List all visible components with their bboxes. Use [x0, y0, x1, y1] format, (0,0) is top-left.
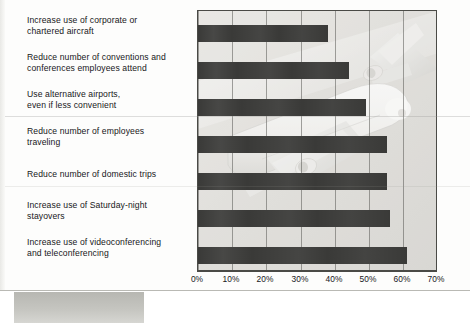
category-label-3-line2: traveling [27, 137, 60, 147]
category-label-2-line2: even if less convenient [27, 100, 116, 110]
plot-area [197, 10, 437, 272]
category-label-5-line1: Increase use of Saturday-night [27, 200, 147, 210]
bar-4 [198, 173, 387, 190]
category-label-list: Increase use of corporate or chartered a… [27, 10, 195, 272]
category-label-6: Increase use of videoconferencing and te… [27, 237, 197, 259]
x-tick-20: 20% [257, 274, 274, 284]
x-tick-70: 70% [428, 274, 445, 284]
category-label-4: Reduce number of domestic trips [27, 169, 197, 180]
category-label-2-line1: Use alternative airports, [27, 89, 120, 99]
x-tick-0: 0% [191, 274, 203, 284]
x-tick-10: 10% [223, 274, 240, 284]
x-axis-tick-labels: 0% 10% 20% 30% 40% 50% 60% 70% [197, 274, 437, 287]
scan-page-edge-left [0, 0, 5, 292]
category-label-2: Use alternative airports, even if less c… [27, 89, 197, 111]
category-label-3-line1: Reduce number of employees [27, 126, 144, 136]
x-tick-30: 30% [292, 274, 309, 284]
category-label-1-line1: Reduce number of conventions and [27, 52, 166, 62]
category-label-1-line2: conferences employees attend [27, 63, 147, 73]
category-label-6-line2: and teleconferencing [27, 248, 109, 258]
scan-page-shadow-block [14, 292, 144, 323]
x-tick-60: 60% [394, 274, 411, 284]
category-label-4-line1: Reduce number of domestic trips [27, 169, 156, 179]
category-label-1: Reduce number of conventions and confere… [27, 52, 197, 74]
bar-5 [198, 210, 390, 227]
bar-2 [198, 99, 366, 116]
category-label-5-line2: stayovers [27, 211, 65, 221]
scan-fold-line-secondary [0, 186, 470, 187]
category-label-0-line1: Increase use of corporate or [27, 15, 137, 25]
scan-fold-line [0, 116, 470, 117]
category-label-5: Increase use of Saturday-night stayovers [27, 200, 197, 222]
x-tick-40: 40% [326, 274, 343, 284]
bar-3 [198, 136, 387, 153]
category-label-3: Reduce number of employees traveling [27, 126, 197, 148]
bar-0 [198, 25, 328, 42]
chart-page: Increase use of corporate or chartered a… [0, 0, 470, 323]
x-axis-baseline [198, 270, 436, 271]
category-label-0: Increase use of corporate or chartered a… [27, 15, 197, 37]
category-label-6-line1: Increase use of videoconferencing [27, 237, 161, 247]
gridline [403, 11, 404, 271]
bar-6 [198, 247, 407, 264]
x-tick-50: 50% [360, 274, 377, 284]
category-label-0-line2: chartered aircraft [27, 26, 94, 36]
bar-1 [198, 62, 349, 79]
